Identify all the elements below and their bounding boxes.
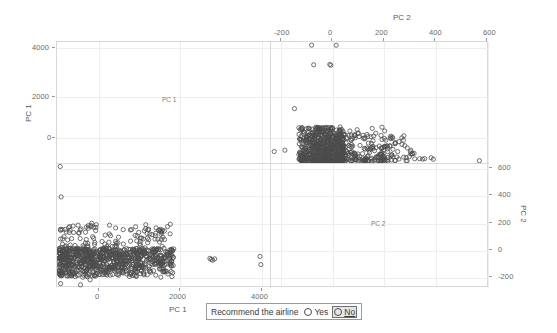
legend-entry-no[interactable]: No: [332, 306, 357, 318]
axis-bottom-tick: [179, 288, 180, 291]
axis-left-tick-label: 2000: [32, 92, 49, 101]
open-circle-icon: [334, 308, 342, 316]
axis-bottom-tick-label: 2000: [169, 292, 186, 301]
axis-left-tick-label: 0: [47, 133, 51, 142]
panel-pc2-vs-pc1[interactable]: [271, 42, 489, 164]
axis-left-tick-label: 4000: [32, 43, 49, 52]
axis-left-tick: [52, 47, 55, 48]
legend-entry-yes[interactable]: Yes: [304, 307, 328, 317]
axis-right-tick-label: 400: [498, 190, 511, 199]
axis-bottom-tick-label: 0: [95, 292, 99, 301]
axis-bottom-tick: [261, 288, 262, 291]
axis-top-tick-label: 400: [429, 28, 442, 37]
axis-left-tick: [52, 137, 55, 138]
axis-top-tick-label: -200: [274, 28, 289, 37]
legend-label-no: No: [344, 307, 355, 317]
axis-right-tick-label: 200: [498, 218, 511, 227]
axis-top-tick-label: 0: [328, 28, 332, 37]
legend[interactable]: Recommend the airline Yes No: [206, 303, 362, 320]
panel-pc2-pc2[interactable]: PC 2: [271, 164, 489, 288]
axis-left-tick: [52, 96, 55, 97]
axis-top-tick-label: 200: [375, 28, 388, 37]
axis-right-tick-label: -200: [498, 272, 513, 281]
open-circle-icon: [304, 308, 312, 316]
axis-right-tick: [489, 222, 492, 223]
legend-title: Recommend the airline: [211, 307, 298, 317]
axis-right-tick: [489, 194, 492, 195]
scatter-points-pc1-pc2: [57, 164, 270, 288]
axis-bottom-tick: [98, 288, 99, 291]
axis-right-tick: [489, 167, 492, 168]
axis-right-tick: [489, 276, 492, 277]
axis-right-tick-label: 600: [498, 163, 511, 172]
axis-title-left: PC 1: [24, 104, 33, 122]
axis-bottom-tick-label: 4000: [251, 292, 268, 301]
scatter-points-pc2-pc1: [271, 42, 489, 163]
axis-title-top: PC 2: [393, 13, 411, 22]
diagonal-label-pc2: PC 2: [371, 220, 385, 227]
scatterplot-matrix-root: PC 2 -200 0 200 400 600 PC 1 4000 2000 0…: [0, 0, 557, 333]
legend-label-yes: Yes: [314, 307, 328, 317]
axis-top-tick-label: 600: [483, 28, 496, 37]
diagonal-label-pc1: PC 1: [162, 96, 176, 103]
axis-title-right: PC 2: [519, 205, 528, 223]
axis-right-tick: [489, 249, 492, 250]
axis-title-bottom: PC 1: [169, 305, 187, 314]
panel-pc1-pc1[interactable]: PC 1: [57, 42, 271, 164]
scatterplot-matrix: PC 1: [56, 41, 488, 287]
axis-right-tick-label: 0: [498, 245, 502, 254]
panel-pc1-vs-pc2[interactable]: [57, 164, 271, 288]
